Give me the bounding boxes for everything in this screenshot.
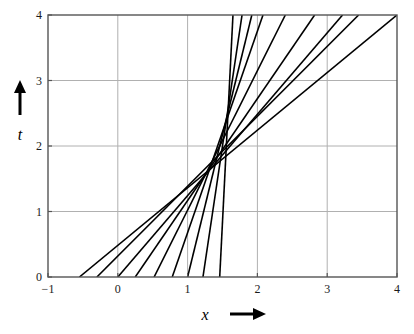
y-axis-label: t	[18, 126, 23, 143]
x-tick-label: 4	[394, 282, 400, 296]
y-tick-label: 4	[36, 8, 42, 22]
y-tick-label: 1	[36, 205, 42, 219]
y-tick-label: 0	[36, 270, 42, 284]
y-tick-label: 2	[36, 139, 42, 153]
x-axis-label: x	[200, 306, 208, 323]
x-tick-label: 1	[185, 282, 191, 296]
x-tick-label: 0	[115, 282, 121, 296]
spacetime-diagram-figure: −101234 01234 t x	[0, 0, 414, 334]
x-tick-label: −1	[42, 282, 55, 296]
spacetime-plot-svg: −101234 01234 t x	[0, 0, 414, 334]
y-tick-label: 3	[36, 74, 42, 88]
x-tick-label: 2	[254, 282, 260, 296]
x-tick-label: 3	[324, 282, 330, 296]
